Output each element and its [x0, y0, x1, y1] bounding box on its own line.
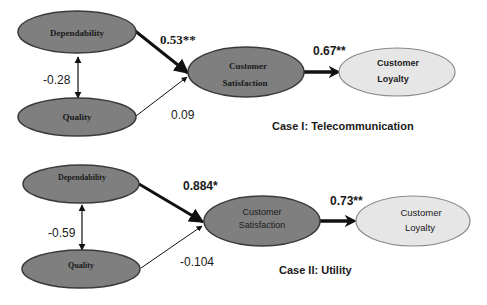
coef-quality-satisfaction: 0.09 — [171, 108, 195, 122]
label-satisfaction-line1: Customer — [242, 207, 281, 217]
label-loyalty-line1: Customer — [400, 207, 441, 218]
coef-dependability-quality: -0.59 — [48, 226, 76, 240]
case-2-diagram: Dependability Quality Customer Satisfact… — [22, 165, 470, 288]
coef-satisfaction-loyalty: 0.67** — [313, 44, 346, 58]
case-2-title: Case II: Utility — [279, 264, 353, 276]
path-diagram: Dependability Quality Customer Satisfact… — [0, 0, 487, 305]
coef-dependability-satisfaction: 0.53** — [160, 32, 196, 47]
label-loyalty-line2: Loyalty — [405, 222, 435, 233]
label-quality: Quality — [62, 112, 92, 122]
node-customer-satisfaction — [188, 47, 304, 97]
label-loyalty-line2: Loyalty — [377, 74, 409, 84]
coef-satisfaction-loyalty: 0.73** — [330, 194, 363, 208]
label-loyalty-line1: Customer — [377, 58, 420, 68]
case-1-diagram: Dependability Quality Customer Satisfact… — [18, 11, 455, 136]
coef-dependability-satisfaction: 0.884* — [183, 179, 218, 193]
label-dependability: Dependability — [50, 28, 105, 38]
node-dependability — [23, 165, 139, 203]
coef-dependability-quality: -0.28 — [43, 73, 71, 87]
label-dependability: Dependability — [58, 173, 106, 182]
label-quality: Quality — [68, 261, 94, 270]
node-customer-loyalty — [356, 196, 470, 246]
case-1-title: Case I: Telecommunication — [272, 120, 414, 132]
label-satisfaction-line1: Customer — [229, 61, 267, 71]
label-satisfaction-line2: Satisfaction — [223, 78, 268, 88]
node-customer-loyalty — [339, 48, 455, 96]
label-satisfaction-line2: Satisfaction — [239, 220, 286, 230]
coef-quality-satisfaction: -0.104 — [180, 255, 214, 269]
